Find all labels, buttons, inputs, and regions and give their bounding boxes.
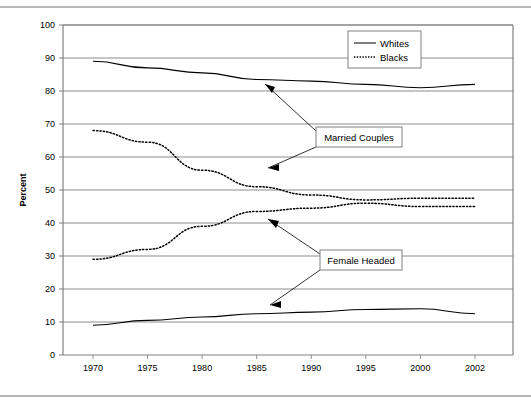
legend-label-whites: Whites [380,38,409,49]
y-axis-tick-label: 50 [45,185,55,195]
y-axis-tick-label: 80 [45,86,55,96]
x-axis-tick-label: 1975 [138,363,158,373]
x-axis-tick-label: 1970 [83,363,103,373]
y-axis-ticks: 0102030405060708090100 [40,20,63,360]
x-axis-tick-label: 1990 [301,363,321,373]
legend-label-blacks: Blacks [380,52,408,63]
y-axis-tick-label: 20 [45,284,55,294]
line-chart-canvas: 0102030405060708090100 19701975198019851… [0,0,531,402]
y-axis-tick-label: 10 [45,317,55,327]
x-axis-tick-label: 1980 [192,363,212,373]
y-axis-tick-label: 90 [45,53,55,63]
x-axis-tick-label: 2000 [410,363,430,373]
x-axis-tick-label: 1985 [247,363,267,373]
y-axis-tick-label: 0 [50,350,55,360]
y-axis-tick-label: 60 [45,152,55,162]
y-axis-tick-label: 70 [45,119,55,129]
legend: Whites Blacks [348,31,421,68]
y-axis-tick-label: 30 [45,251,55,261]
x-axis-tick-label: 2002 [465,363,485,373]
annotation-label-married-couples: Married Couples [324,132,394,143]
chart-figure: 0102030405060708090100 19701975198019851… [0,0,531,402]
annotation-female-headed: Female Headed [320,250,402,270]
x-axis-tick-label: 1995 [356,363,376,373]
annotation-label-female-headed: Female Headed [327,255,395,266]
y-axis-title: Percent [18,173,28,206]
x-axis-ticks: 19701975198019851990199520002002 [83,355,485,373]
annotation-married-couples: Married Couples [316,127,402,147]
y-axis-tick-label: 40 [45,218,55,228]
y-axis-tick-label: 100 [40,20,55,30]
